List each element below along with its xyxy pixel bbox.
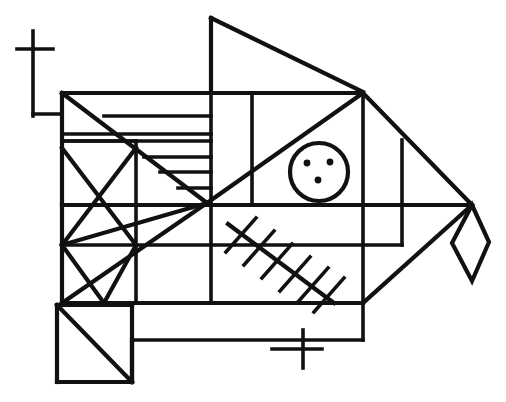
dorsal-fin-triangle <box>211 18 363 92</box>
eye-dot-bottom <box>315 177 322 184</box>
eye-dot-right <box>327 159 334 166</box>
eye-dot-left <box>304 160 311 167</box>
herringbone-hatch <box>226 218 344 312</box>
fish-line-drawing <box>0 0 506 402</box>
lower-cross-mark-icon <box>272 330 322 368</box>
lower-left-box <box>57 305 132 382</box>
upper-left-cross-mark-icon <box>17 31 53 116</box>
figure-canvas: Abstract geometric fish line drawing Bla… <box>0 0 506 402</box>
eye-circle <box>290 143 348 201</box>
